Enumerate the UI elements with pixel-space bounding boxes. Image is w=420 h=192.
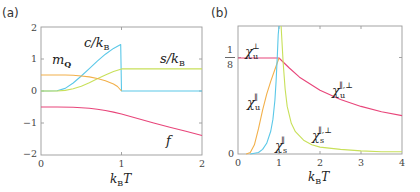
svg-text:8: 8 [227,59,233,70]
svg-text:−2: −2 [23,148,37,159]
svg-text:2: 2 [199,158,205,169]
panel-a-x-axis-label: kBT [110,172,132,188]
panel-a-x-tick-labels: 0 1 2 [38,158,205,169]
svg-text:2: 2 [31,22,37,33]
svg-text:0: 0 [31,85,37,96]
svg-text:1: 1 [118,158,124,169]
svg-text:0: 0 [235,157,241,168]
svg-text:1: 1 [276,157,282,168]
panel-b-label: (b) [211,6,228,20]
label-chi-s-parallel: χs∥ [274,136,287,155]
label-chi-u-perp: χu⊥ [244,42,260,61]
svg-text:1: 1 [31,53,37,64]
label-s-over-kb: s/kB [160,51,185,68]
svg-text:0: 0 [228,148,234,159]
label-chi-u-parallel-perp: χu∥,⊥ [331,81,353,100]
svg-text:4: 4 [399,157,405,168]
figure: (a) 2 1 0 −1 −2 0 1 2 kBT [0,0,420,192]
panel-b: (b) 1 8 0 0 1 2 3 4 kBT [211,6,405,186]
panel-a: (a) 2 1 0 −1 −2 0 1 2 kBT [2,6,205,188]
svg-text:−1: −1 [23,117,37,128]
svg-text:2: 2 [317,157,323,168]
svg-text:0: 0 [38,158,44,169]
label-chi-s-parallel-perp: χs∥,⊥ [311,126,332,145]
curve-f [41,107,202,136]
panel-a-label: (a) [2,6,19,20]
label-chi-u-parallel: χu∥ [246,93,260,112]
panel-b-x-tick-labels: 0 1 2 3 4 [235,157,405,168]
svg-text:1: 1 [227,44,233,55]
curve-chi-u-perp [238,58,402,116]
label-c-over-kb: c/kB [84,35,110,52]
panel-b-y-tick-labels: 1 8 0 [225,44,235,159]
panel-b-x-axis-label: kBT [308,170,330,186]
curve-m-q [41,75,122,91]
label-f: f [165,133,173,148]
label-m-q: mQ [52,52,71,69]
panel-a-y-tick-labels: 2 1 0 −1 −2 [23,22,37,159]
svg-text:3: 3 [358,157,364,168]
